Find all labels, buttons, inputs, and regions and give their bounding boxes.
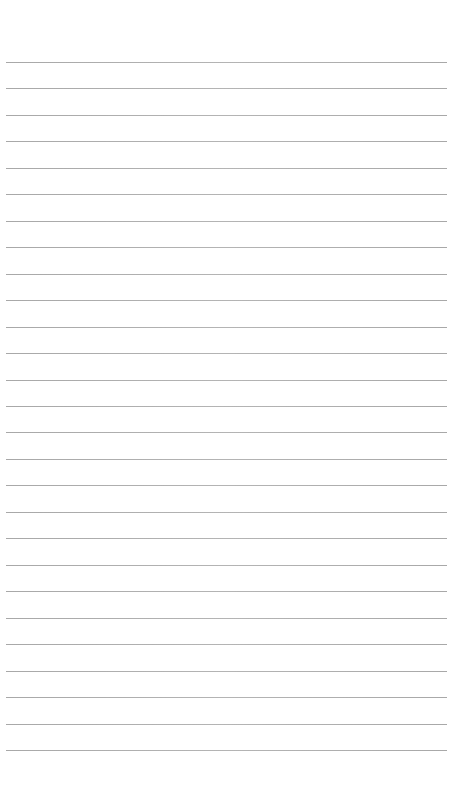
ruled-line: [6, 380, 447, 381]
ruled-line: [6, 485, 447, 486]
ruled-line: [6, 141, 447, 142]
ruled-line: [6, 115, 447, 116]
ruled-line: [6, 644, 447, 645]
ruled-line: [6, 724, 447, 725]
ruled-line: [6, 565, 447, 566]
ruled-line: [6, 591, 447, 592]
ruled-line: [6, 671, 447, 672]
ruled-line: [6, 194, 447, 195]
ruled-line: [6, 274, 447, 275]
ruled-line: [6, 432, 447, 433]
ruled-line: [6, 62, 447, 63]
ruled-line: [6, 221, 447, 222]
ruled-line: [6, 168, 447, 169]
ruled-line: [6, 300, 447, 301]
ruled-line: [6, 697, 447, 698]
ruled-line: [6, 247, 447, 248]
ruled-line: [6, 538, 447, 539]
lined-paper-page: [0, 0, 474, 789]
ruled-line: [6, 512, 447, 513]
ruled-line: [6, 353, 447, 354]
ruled-line: [6, 750, 447, 751]
ruled-line: [6, 459, 447, 460]
ruled-line: [6, 618, 447, 619]
ruled-line: [6, 327, 447, 328]
ruled-line: [6, 406, 447, 407]
ruled-line: [6, 88, 447, 89]
